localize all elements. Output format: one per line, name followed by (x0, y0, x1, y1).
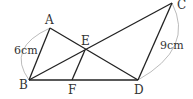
segment-ef (72, 50, 85, 80)
label-e: E (81, 34, 90, 48)
label-d: D (134, 83, 144, 97)
measure-cd: 9cm (160, 39, 184, 52)
label-a: A (44, 13, 54, 27)
label-c: C (177, 0, 186, 12)
measure-ab: 6cm (14, 44, 38, 57)
geometry-figure: A B C D E F 6cm 9cm (0, 0, 193, 99)
label-f: F (68, 83, 76, 97)
segment-ad (50, 28, 138, 80)
label-b: B (19, 78, 28, 92)
geometry-diagram: A B C D E F 6cm 9cm (0, 0, 193, 99)
